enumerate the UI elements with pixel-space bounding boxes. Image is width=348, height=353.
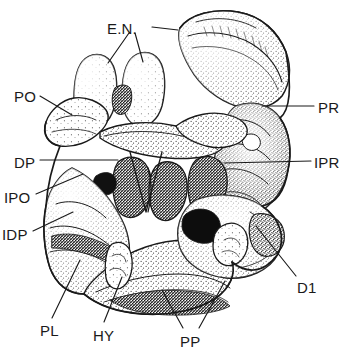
- hyoid-element: [105, 242, 132, 288]
- label-pl: PL: [40, 323, 59, 338]
- label-ipo: IPO: [4, 190, 30, 205]
- label-ipr: IPR: [314, 155, 340, 170]
- label-pr: PR: [318, 100, 339, 115]
- label-po: PO: [14, 89, 36, 104]
- label-en: E.N.: [107, 21, 137, 36]
- label-dp: DP: [14, 155, 35, 170]
- label-d1: D1: [297, 280, 317, 295]
- figure-root: 2001.): [0, 0, 348, 353]
- specimen-illustration: [0, 0, 348, 353]
- label-pp: PP: [180, 334, 200, 349]
- label-hy: HY: [93, 328, 114, 343]
- label-idp: IDP: [2, 227, 28, 242]
